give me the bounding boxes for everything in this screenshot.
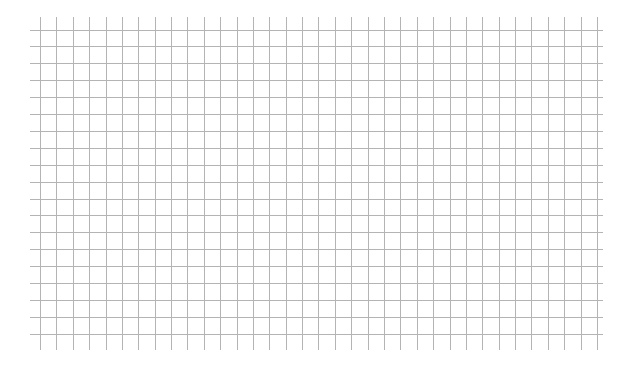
horizontal-grid-lines [30,31,603,335]
grid-paper [0,0,631,369]
